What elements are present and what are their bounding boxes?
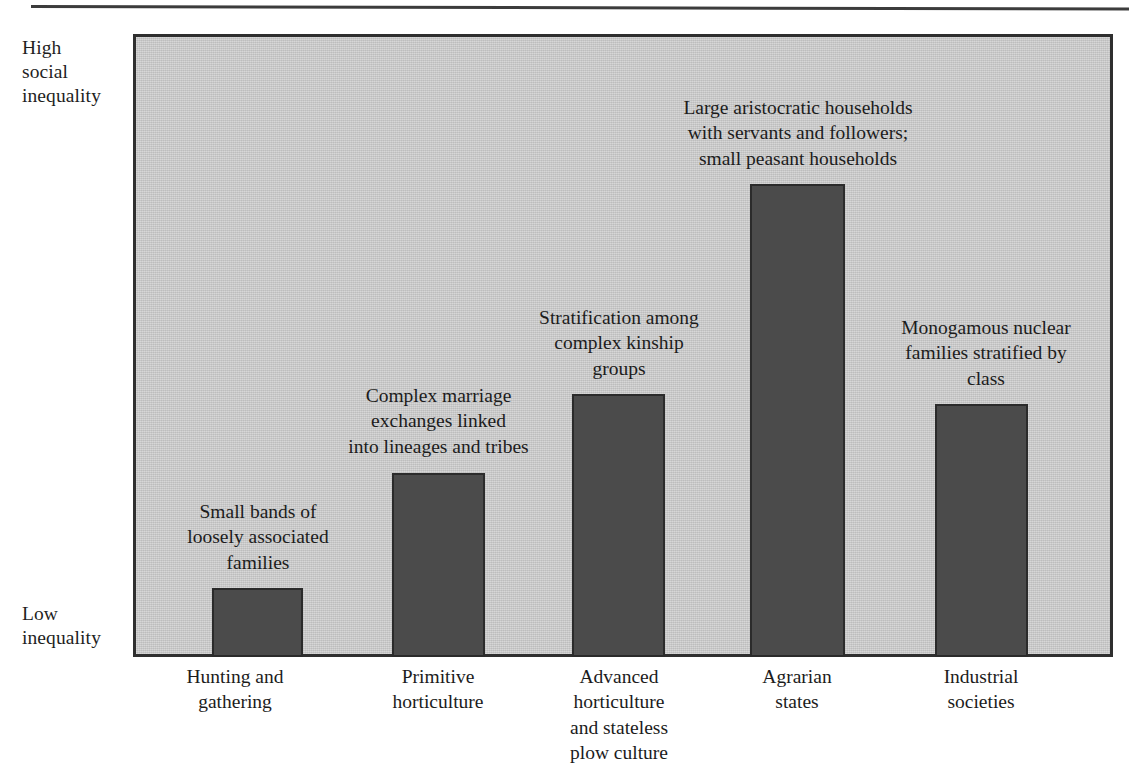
top-divider-rule bbox=[31, 5, 1129, 10]
category-label-industrial-societies: Industrial societies bbox=[901, 664, 1061, 715]
bar-annotation-agrarian-states: Large aristocratic households with serva… bbox=[631, 95, 965, 171]
bar-agrarian-states bbox=[750, 184, 845, 657]
bar-annotation-primitive-horticulture: Complex marriage exchanges linked into l… bbox=[297, 383, 580, 459]
bar-industrial-societies bbox=[935, 404, 1028, 657]
y-axis-low-label: Low inequality bbox=[22, 602, 101, 650]
category-label-agrarian-states: Agrarian states bbox=[717, 664, 877, 715]
chart-plot-area: Small bands of loosely associated famili… bbox=[133, 34, 1113, 657]
bar-annotation-hunting-and-gathering: Small bands of loosely associated famili… bbox=[162, 499, 354, 575]
category-label-hunting-and-gathering: Hunting and gathering bbox=[155, 664, 315, 715]
bar-advanced-horticulture bbox=[572, 394, 665, 657]
bar-annotation-advanced-horticulture: Stratification among complex kinship gro… bbox=[493, 305, 745, 381]
bar-hunting-and-gathering bbox=[212, 588, 303, 657]
category-label-advanced-horticulture: Advanced horticulture and stateless plow… bbox=[534, 664, 704, 765]
bar-annotation-industrial-societies: Monogamous nuclear families stratified b… bbox=[866, 315, 1106, 391]
y-axis-high-label: High social inequality bbox=[22, 36, 101, 107]
bar-primitive-horticulture bbox=[392, 473, 485, 657]
category-label-primitive-horticulture: Primitive horticulture bbox=[358, 664, 518, 715]
